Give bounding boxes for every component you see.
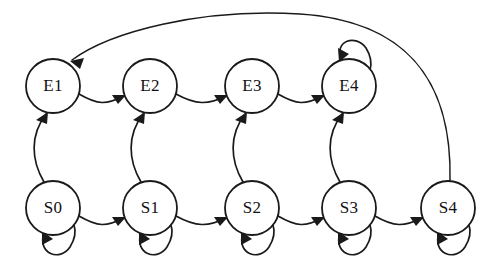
edge-s0-to-e1-arrowhead — [36, 112, 48, 124]
edge-s2-to-e3 — [233, 112, 247, 182]
node-s4[interactable]: S4 — [421, 181, 475, 235]
edge-s1-to-e2-arrowhead — [133, 112, 145, 124]
edge-s2-to-s3 — [278, 216, 325, 226]
node-e2-label: E2 — [140, 76, 159, 95]
edge-s3-to-e4 — [330, 112, 344, 182]
node-e1-label: E1 — [43, 76, 62, 95]
node-s1[interactable]: S1 — [123, 181, 177, 235]
node-e4-label: E4 — [339, 76, 359, 95]
node-s0-label: S0 — [44, 198, 62, 217]
node-s2[interactable]: S2 — [225, 181, 279, 235]
edge-s2-to-e3-path — [233, 114, 245, 182]
edge-s0-to-s1 — [79, 216, 126, 226]
node-s3-label: S3 — [340, 198, 358, 217]
diagram-canvas: E1 E2 E3 E4 S0 S1 S2 S3 — [0, 0, 486, 277]
node-s4-label: S4 — [439, 198, 458, 217]
edge-s0-to-e1-path — [34, 114, 46, 182]
node-e2[interactable]: E2 — [123, 59, 177, 113]
node-s2-label: S2 — [243, 198, 261, 217]
edge-e2-to-e3 — [176, 94, 228, 104]
node-e1[interactable]: E1 — [26, 59, 80, 113]
edge-s1-to-e2 — [131, 112, 145, 182]
edge-s3-to-s4 — [375, 216, 424, 226]
node-e3[interactable]: E3 — [225, 59, 279, 113]
edge-e1-to-e2 — [79, 94, 126, 104]
edge-s0-to-e1 — [34, 112, 48, 182]
edge-s3-to-e4-path — [330, 114, 342, 182]
node-e3-label: E3 — [242, 76, 261, 95]
node-s1-label: S1 — [141, 198, 159, 217]
edge-s3-to-e4-arrowhead — [332, 112, 344, 124]
edge-s1-to-e2-path — [131, 114, 143, 182]
edge-s2-to-e3-arrowhead — [235, 112, 247, 124]
node-s3[interactable]: S3 — [322, 181, 376, 235]
state-diagram: E1 E2 E3 E4 S0 S1 S2 S3 — [0, 0, 486, 277]
node-e4[interactable]: E4 — [322, 59, 376, 113]
node-s0[interactable]: S0 — [26, 181, 80, 235]
edge-e3-to-e4 — [278, 94, 325, 104]
edge-s1-to-s2 — [176, 216, 228, 226]
